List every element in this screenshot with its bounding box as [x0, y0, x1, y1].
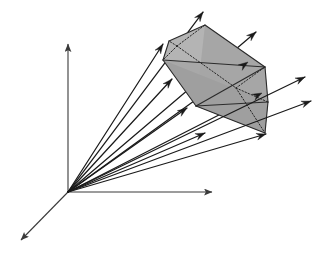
ray-arrowhead-3 — [155, 44, 163, 54]
figure-root — [0, 0, 325, 253]
ray-9 — [68, 108, 187, 192]
ray-3 — [68, 44, 163, 192]
vector-cone-diagram — [0, 0, 325, 253]
ray-5 — [68, 77, 305, 192]
ray-8 — [68, 101, 311, 192]
ray-11 — [68, 134, 266, 192]
depth-axis — [21, 192, 68, 240]
ray-6 — [68, 79, 172, 192]
ray-arrowhead-1 — [195, 12, 203, 22]
